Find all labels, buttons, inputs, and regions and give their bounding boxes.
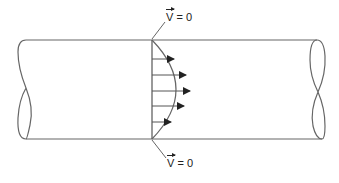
bottom-velocity-value: = 0: [177, 157, 193, 169]
top-leader-line: [152, 22, 165, 39]
pipe-right-end: [310, 40, 325, 139]
pipe-left-end: [18, 40, 31, 139]
velocity-vector-symbol: V: [166, 11, 173, 23]
velocity-profile-curve: [152, 40, 176, 139]
top-velocity-label: V = 0: [166, 11, 192, 23]
bottom-leader-line: [152, 140, 166, 158]
velocity-vector-symbol: V: [167, 157, 174, 169]
top-velocity-value: = 0: [176, 11, 192, 23]
bottom-velocity-label: V = 0: [167, 157, 193, 169]
